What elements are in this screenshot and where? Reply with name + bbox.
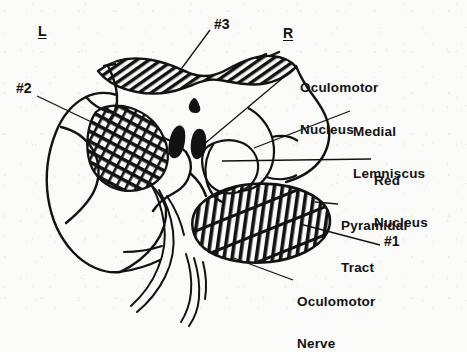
label-line: Pyramidal <box>341 219 407 233</box>
orientation-mark-left: L <box>38 23 47 39</box>
shaded-region-tectum-band <box>90 50 305 100</box>
lesion-marker-2: #2 <box>16 80 32 96</box>
interpeduncular-structures <box>168 98 206 159</box>
shaded-region-left-peduncle <box>80 98 180 198</box>
shaded-region-right-peduncle <box>185 178 340 270</box>
label-line: Nerve <box>297 337 376 351</box>
leader-lesion-3 <box>179 30 210 72</box>
oculomotor-nerve-fibers <box>120 186 206 326</box>
label-oculomotor-nerve: Oculomotor Nerve <box>297 266 376 352</box>
label-line: Medial <box>353 125 425 139</box>
lesion-marker-3: #3 <box>214 16 230 32</box>
leader-lesion-2 <box>37 96 104 128</box>
label-line: Oculomotor <box>300 81 379 95</box>
substantia-nigra-outline <box>238 108 298 191</box>
label-line: Oculomotor <box>297 295 376 309</box>
orientation-mark-right: R <box>283 25 293 41</box>
label-line: Red <box>374 174 428 188</box>
